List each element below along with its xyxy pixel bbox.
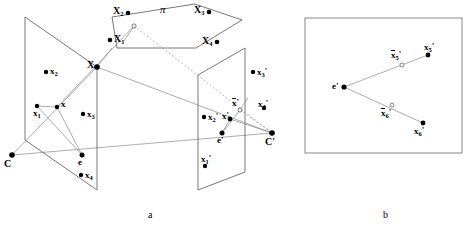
baseline-C-Cprime bbox=[12, 133, 272, 155]
label-X3: X3 bbox=[194, 5, 204, 17]
label-x3: x3 bbox=[87, 110, 95, 121]
plane-pi-label: π bbox=[160, 4, 166, 15]
panel-b-frame bbox=[305, 18, 462, 153]
point-X3 bbox=[207, 10, 212, 15]
point-x3prime bbox=[251, 70, 255, 74]
label-X2: X2 bbox=[113, 6, 123, 18]
point-Cprime bbox=[269, 130, 275, 136]
label-eprime-panel-b: e' bbox=[332, 82, 339, 91]
point-X4 bbox=[215, 40, 220, 45]
label-Cprime: C' bbox=[265, 137, 275, 147]
point-X2 bbox=[126, 11, 131, 16]
label-xprime: x' bbox=[222, 111, 229, 121]
panel-caption-b: b bbox=[383, 210, 388, 220]
panel-caption-a: a bbox=[148, 210, 152, 220]
label-x4: x4 bbox=[85, 171, 93, 182]
label-x: x bbox=[61, 100, 66, 109]
point-x2 bbox=[44, 70, 48, 74]
label-x5prime: x5' bbox=[424, 42, 434, 54]
label-x2: x2 bbox=[50, 67, 58, 78]
point-eprime-panel-b bbox=[341, 84, 346, 89]
label-x1: x1 bbox=[33, 109, 41, 120]
figure-root: π X2 X3 X1 X4 X x2 x1 x x3 x4 e C x3' x4… bbox=[0, 0, 471, 234]
ray-eprime-to-x5prime bbox=[344, 55, 428, 87]
segment-x-to-x1 bbox=[37, 106, 57, 107]
figure-canvas bbox=[0, 0, 471, 234]
label-X4: X4 bbox=[202, 36, 212, 48]
label-x3prime: x3' bbox=[257, 67, 267, 79]
label-x2prime: x2' bbox=[208, 112, 218, 124]
point-x4 bbox=[79, 173, 83, 177]
point-X bbox=[94, 64, 100, 70]
label-xbar5prime: x5' bbox=[391, 50, 401, 62]
segment-Xbar-to-X1 bbox=[124, 26, 134, 41]
label-x1prime: x1' bbox=[201, 154, 211, 166]
label-X1: X1 bbox=[114, 34, 124, 46]
segment-x1-to-e bbox=[37, 106, 82, 155]
label-eprime: e' bbox=[217, 136, 224, 145]
point-x3 bbox=[81, 112, 85, 116]
point-x bbox=[55, 105, 59, 109]
label-x6prime: x6' bbox=[414, 126, 424, 138]
label-e: e bbox=[78, 158, 82, 167]
ray-X-to-Cprime bbox=[97, 67, 272, 133]
segment-xprime-to-Cprime bbox=[230, 119, 272, 133]
point-X1 bbox=[108, 38, 113, 43]
label-xbarprime: x' bbox=[232, 98, 239, 108]
panel-b-group bbox=[305, 18, 462, 153]
label-C: C bbox=[4, 159, 11, 169]
point-C bbox=[9, 152, 15, 158]
plane-pi bbox=[112, 4, 242, 48]
point-xbarprime bbox=[238, 108, 242, 112]
point-x2prime bbox=[202, 115, 206, 119]
point-xbar5prime bbox=[400, 63, 404, 67]
segment-x-to-e bbox=[57, 107, 82, 155]
label-X: X bbox=[87, 60, 94, 70]
point-Xbar bbox=[132, 24, 136, 28]
label-xbar6prime: x6' bbox=[381, 108, 391, 120]
label-x4prime: x4' bbox=[258, 99, 268, 111]
